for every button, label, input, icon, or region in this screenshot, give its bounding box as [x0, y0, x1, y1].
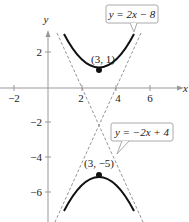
- y-tick-label: 2: [37, 46, 43, 58]
- y-tick-label: −2: [30, 116, 42, 128]
- y-axis-arrow-icon: [46, 30, 51, 37]
- vertex-point-bottom: [96, 172, 102, 178]
- x-tick-label: 4: [115, 92, 121, 104]
- asymptote-label-1: y = 2x − 8: [108, 8, 156, 20]
- vertex-label-top: (3, 1): [91, 53, 115, 66]
- asymptote-label-2: y = −2x + 4: [114, 126, 170, 138]
- x-tick-label: −2: [8, 92, 20, 104]
- hyperbola-lower-branch: [64, 177, 134, 211]
- hyperbola-plot: −2 2 4 6 2 −2 −4 −6 y x (3, 1) (3, −5) y…: [0, 0, 189, 222]
- y-tick-label: −6: [30, 186, 42, 198]
- y-tick-label: −4: [30, 151, 42, 163]
- y-axis-label: y: [43, 13, 49, 25]
- x-axis-label: x: [182, 82, 188, 94]
- x-tick-label: 2: [78, 92, 84, 104]
- x-tick-label: 6: [147, 92, 153, 104]
- vertex-point-top: [96, 67, 102, 73]
- vertex-label-bottom: (3, −5): [84, 157, 114, 170]
